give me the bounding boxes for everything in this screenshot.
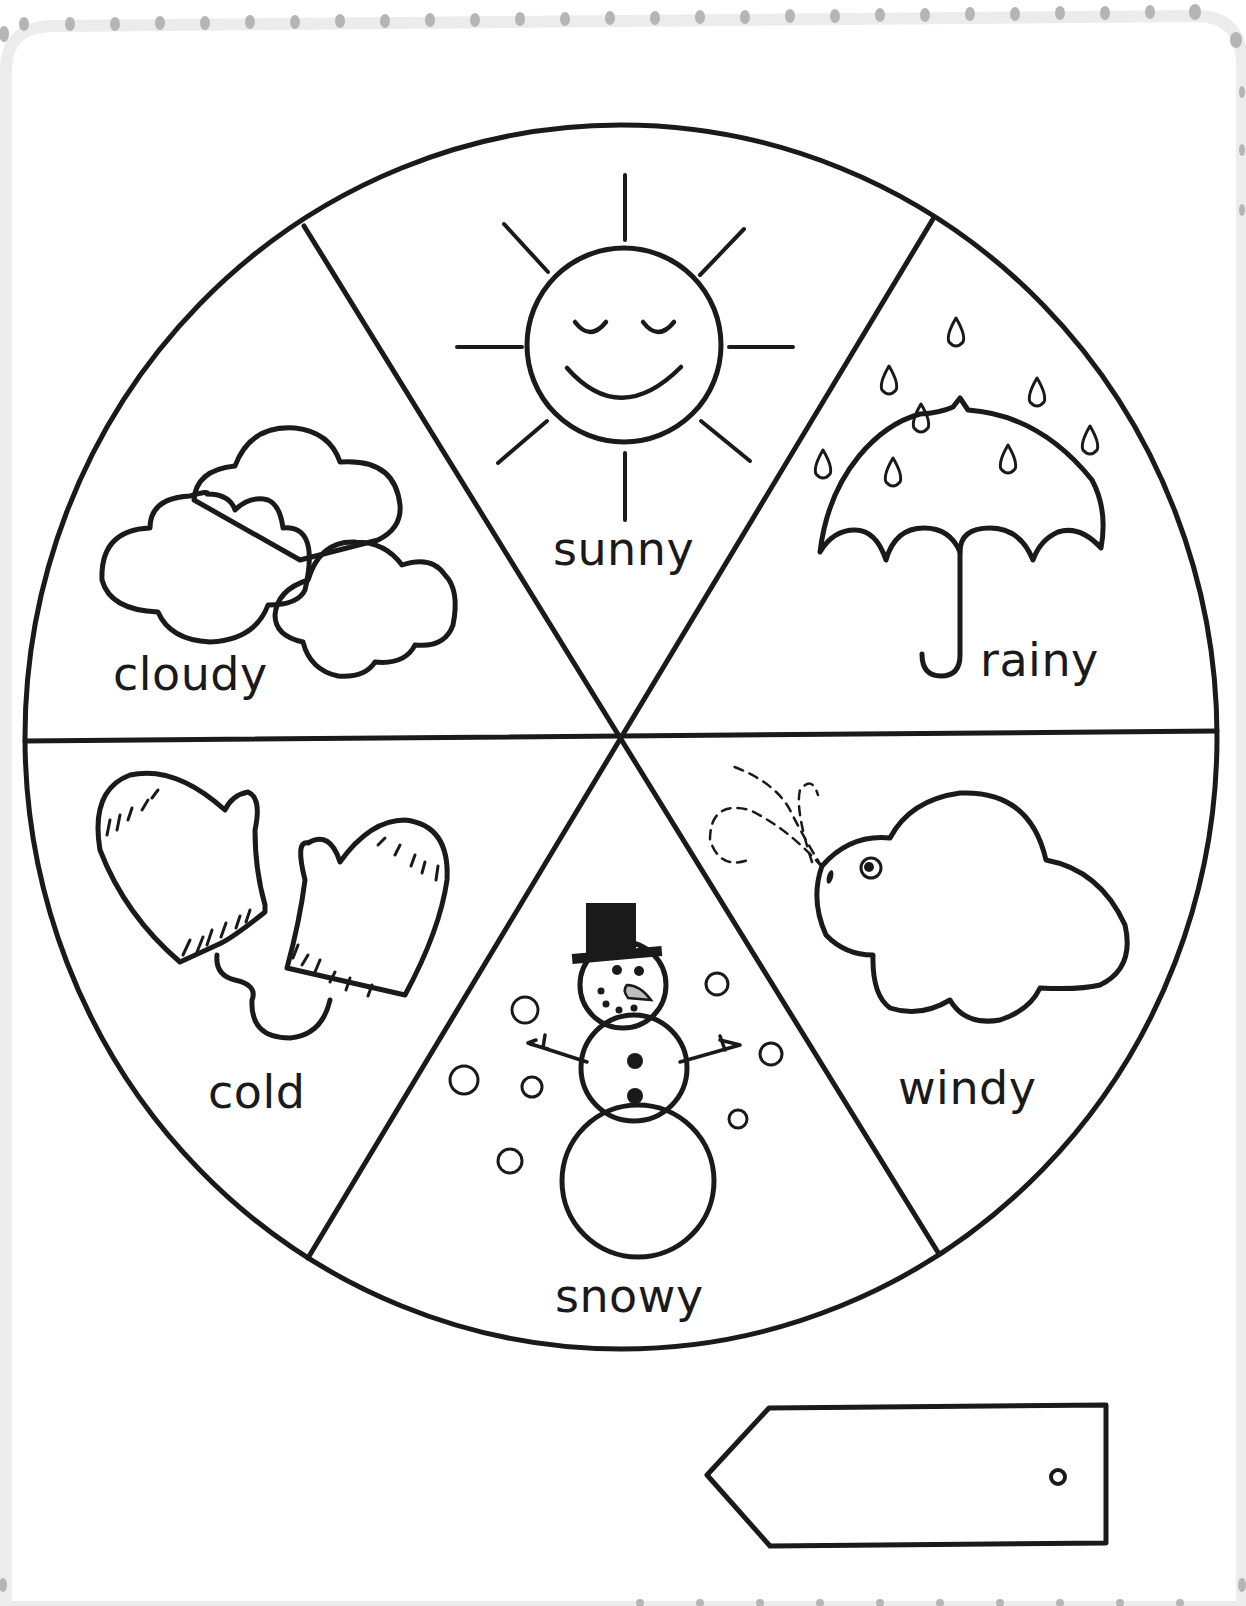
weather-wheel	[25, 125, 1217, 1349]
snowflakes-icon	[450, 973, 782, 1173]
weather-wheel-worksheet: sunny rainy cloudy	[0, 0, 1246, 1606]
carrot-nose-icon	[625, 985, 651, 1000]
segment-label-cold: cold	[208, 1065, 305, 1119]
mittens-icon	[98, 773, 447, 1038]
arrow-tag-icon[interactable]	[707, 1405, 1106, 1546]
snowman-icon	[528, 903, 740, 1257]
wheel-segment-cold: cold	[98, 773, 447, 1119]
wheel-segment-windy: windy	[710, 766, 1127, 1115]
segment-label-rainy: rainy	[980, 633, 1099, 687]
sun-icon	[457, 175, 793, 520]
wheel-segment-rainy: rainy	[815, 318, 1103, 687]
clouds-icon	[102, 428, 455, 676]
segment-label-cloudy: cloudy	[113, 647, 268, 701]
segment-label-sunny: sunny	[553, 522, 694, 576]
segment-label-snowy: snowy	[555, 1269, 704, 1323]
wheel-segment-sunny: sunny	[457, 175, 793, 576]
tag-hole-icon	[1051, 1470, 1065, 1484]
wheel-segment-cloudy: cloudy	[102, 428, 455, 701]
wheel-segment-snowy: snowy	[450, 903, 782, 1323]
segment-label-windy: windy	[898, 1061, 1036, 1115]
